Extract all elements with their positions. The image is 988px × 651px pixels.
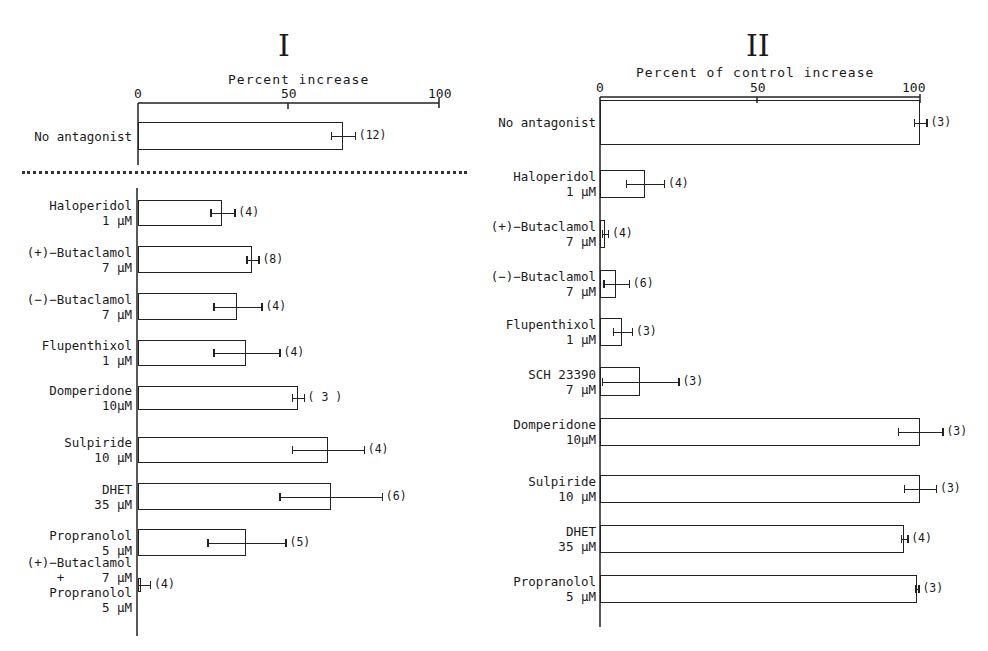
axes-lines bbox=[0, 0, 988, 651]
